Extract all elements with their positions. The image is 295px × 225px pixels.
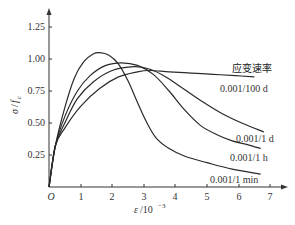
- x-tick-label: 5: [205, 191, 210, 202]
- y-axis-arrow-icon: [47, 8, 52, 15]
- x-tick-label: 1: [79, 191, 84, 202]
- y-tick-label: 0.25: [28, 149, 46, 160]
- curve-0-001-1-min: [49, 53, 261, 187]
- x-tick-label: 6: [237, 191, 242, 202]
- series-label-100d: 0.001/100 d: [220, 83, 268, 94]
- series-label-1h: 0.001/1 h: [230, 152, 268, 163]
- x-tick-label: 4: [173, 191, 178, 202]
- y-tick-label: 1.25: [28, 21, 46, 32]
- legend-title: 应变速率: [232, 62, 272, 74]
- y-tick-label: 0.50: [28, 117, 46, 128]
- series-label-1d: 0.001/1 d: [236, 133, 274, 144]
- series-label-1min: 0.001/1 min: [210, 174, 258, 185]
- stress-strain-chart: 1.25 1.00 0.75 0.50 0.25 O 1 2 3 4 5 6 7…: [0, 0, 295, 225]
- svg-text:/: /: [9, 104, 20, 107]
- svg-text:σ: σ: [9, 108, 20, 114]
- x-tick-label: 2: [110, 191, 115, 202]
- svg-text:ε: ε: [134, 204, 138, 215]
- x-tick-label: 3: [142, 191, 147, 202]
- y-axis-title: σ / f c: [9, 95, 23, 114]
- svg-text:/10: /10: [140, 204, 153, 215]
- x-axis-title: ε /10 −3: [134, 202, 166, 215]
- y-tick-label: 0.75: [28, 85, 46, 96]
- origin-label: O: [47, 191, 54, 202]
- svg-text:−3: −3: [158, 202, 166, 210]
- x-tick-label: 7: [268, 191, 273, 202]
- y-tick-label: 1.00: [28, 53, 46, 64]
- svg-text:c: c: [15, 95, 23, 99]
- x-axis-arrow-icon: [281, 185, 288, 190]
